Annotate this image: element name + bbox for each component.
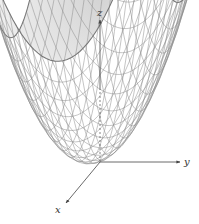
x-axis [66, 162, 100, 203]
z-axis-label: z [96, 7, 103, 18]
paraboloid-figure: z y x [0, 0, 199, 224]
paraboloid-surface [0, 0, 199, 164]
y-axis-label: y [183, 156, 190, 167]
x-axis-label: x [55, 204, 61, 215]
mesh-line [139, 0, 199, 29]
